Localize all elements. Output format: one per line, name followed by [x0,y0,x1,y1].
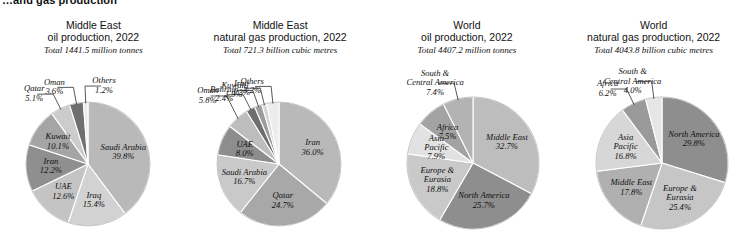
slice-label-text: 16.8% [614,151,636,161]
pie-chart-figure: …and gas production Middle Eastoil produ… [0,0,747,251]
slice-label-text: 25.4% [669,202,691,212]
slice-label-text: 6.2% [599,88,617,98]
slice-label-text: 29.8% [683,138,705,148]
pie-world-gas: North America29.8%Europe &Eurasia25.4%Mi… [0,0,747,251]
slice-label-text: 17.8% [620,187,642,197]
slice-label-text: 4.0% [624,85,642,95]
